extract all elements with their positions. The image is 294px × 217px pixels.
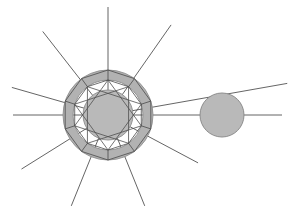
diagram-canvas: [0, 0, 294, 217]
satellite-circle: [200, 93, 244, 137]
geometric-diagram: [0, 0, 294, 217]
inner-disc: [83, 90, 133, 140]
satellite-group: [200, 93, 244, 137]
hub-group: [63, 70, 153, 160]
